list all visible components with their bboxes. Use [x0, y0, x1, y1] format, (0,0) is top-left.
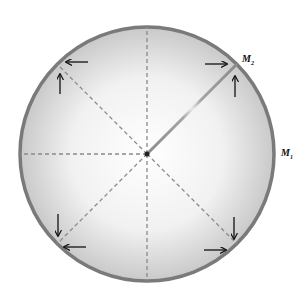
m1-label: M1 [281, 147, 293, 160]
m2-label: M2 [242, 53, 254, 66]
magnetization-diagram [0, 0, 308, 301]
center-point [145, 152, 150, 157]
